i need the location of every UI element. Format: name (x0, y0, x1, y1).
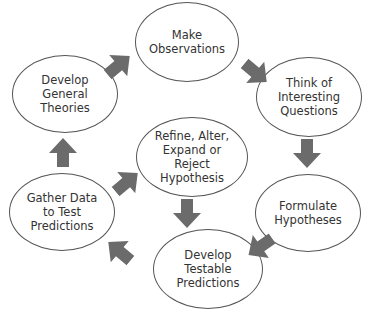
node-label: Develop Testable Predictions (176, 248, 239, 290)
arrow-up-left-icon (98, 230, 140, 272)
arrow-up-icon (48, 137, 78, 167)
node-label: Make Observations (149, 28, 225, 56)
node-label: Formulate Hypotheses (274, 199, 342, 227)
node-label: Refine, Alter, Expand or Reject Hypothes… (155, 129, 230, 185)
node-label: Think of Interesting Questions (278, 76, 340, 118)
node-label: Develop General Theories (40, 73, 89, 115)
arrow-down-icon (172, 199, 202, 229)
node-make-observations: Make Observations (135, 2, 239, 82)
node-gather-data: Gather Data to Test Predictions (9, 173, 115, 251)
node-label: Gather Data to Test Predictions (27, 191, 98, 233)
node-refine-hypothesis: Refine, Alter, Expand or Reject Hypothes… (136, 117, 248, 197)
arrow-down-icon (292, 139, 322, 169)
